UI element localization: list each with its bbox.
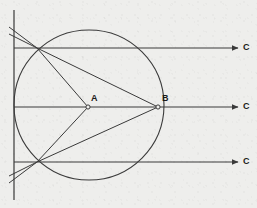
point-b-label: B: [162, 94, 169, 103]
ray-extension-upper-1: [9, 34, 37, 48]
point-a-label: A: [91, 94, 98, 103]
ray-extension-lower-1: [9, 162, 37, 176]
ray-bottom-label: C: [243, 157, 250, 166]
ray-extension-lower-2: [9, 162, 37, 183]
ray-top-label: C: [243, 43, 250, 52]
ray-middle-label: C: [243, 102, 250, 111]
chord-upper-to-a: [37, 48, 88, 107]
chord-lower-to-a: [37, 107, 88, 162]
point-b-marker: [156, 105, 160, 109]
diagram-canvas: [0, 0, 257, 208]
point-a-marker: [86, 105, 90, 109]
chord-lower-to-b: [37, 107, 158, 162]
ray-extension-upper-2: [9, 27, 37, 48]
ray-diagram-figure: A B C C C: [0, 0, 257, 208]
